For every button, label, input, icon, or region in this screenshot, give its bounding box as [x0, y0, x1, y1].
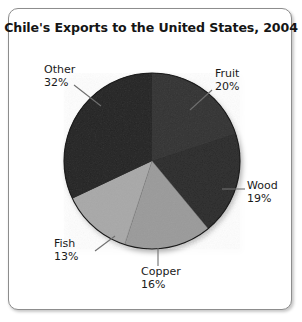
pie-body [64, 73, 240, 249]
pie-label-other-value: 32% [44, 77, 75, 90]
pie-label-wood: Wood 19% [247, 180, 278, 206]
pie-label-wood-value: 19% [247, 193, 278, 206]
chart-figure: Chile's Exports to the United States, 20… [0, 0, 302, 322]
pie-label-fish: Fish 13% [54, 238, 78, 264]
pie-label-copper-value: 16% [141, 279, 181, 292]
leader-line-fish [95, 236, 115, 251]
pie-label-fruit-value: 20% [215, 81, 239, 94]
pie-label-fruit: Fruit 20% [215, 68, 239, 94]
pie-label-copper: Copper 16% [141, 266, 181, 292]
pie-grain-overlay [64, 73, 240, 249]
pie-label-other: Other 32% [44, 64, 75, 90]
pie-label-fish-value: 13% [54, 251, 78, 264]
